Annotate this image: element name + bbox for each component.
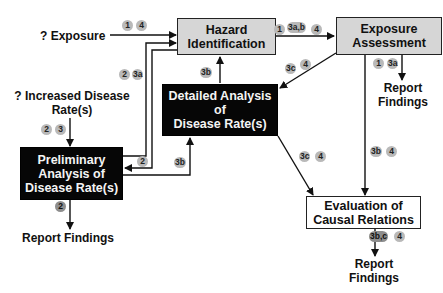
evaluation-line1: Evaluation of [313, 199, 414, 213]
step-badge: 4 [311, 24, 322, 35]
step-badge: 2 [41, 124, 52, 135]
exposure-assessment-line1: Exposure [352, 22, 426, 36]
evaluation-causal-relations-node: Evaluation of Causal Relations [306, 196, 421, 229]
detailed-line3: Disease Rate(s) [168, 117, 271, 131]
step-badge: 4 [315, 151, 326, 162]
step-badge: 3a,b [287, 22, 306, 33]
step-badge: 3a [387, 58, 398, 69]
step-badge: 3c [285, 63, 296, 74]
eval-report-line1: Report [343, 257, 405, 271]
detailed-line2: of [168, 103, 271, 117]
hazard-line1: Hazard [188, 23, 266, 37]
step-badge: 2 [119, 69, 130, 80]
disease-input-line1: ? Increased Disease [13, 89, 131, 103]
step-badge: 4 [136, 20, 147, 31]
hazard-identification-node: Hazard Identification [177, 18, 276, 55]
exposure-report-findings: Report Findings [372, 81, 434, 109]
step-badge: 1 [373, 58, 384, 69]
step-badge: 4 [300, 59, 311, 70]
step-badge: 2 [137, 156, 148, 167]
step-badge: 3a [132, 69, 143, 80]
step-badge: 1 [274, 24, 285, 35]
eval-report-line2: Findings [343, 271, 405, 285]
evaluation-line2: Causal Relations [313, 213, 414, 227]
step-badge: 3b [174, 157, 186, 168]
step-badge: 3b [370, 146, 382, 157]
arrow-detailed-to-eval [278, 136, 313, 195]
detailed-line1: Detailed Analysis [168, 89, 271, 103]
preliminary-line1: Preliminary [25, 153, 118, 167]
prelim-report-findings: Report Findings [22, 231, 114, 245]
step-badge: 1 [122, 20, 133, 31]
exposure-report-line1: Report [372, 81, 434, 95]
hazard-line2: Identification [188, 37, 266, 51]
preliminary-line3: Disease Rate(s) [25, 181, 118, 195]
exposure-assessment-line2: Assessment [352, 36, 426, 50]
step-badge: 3 [55, 124, 66, 135]
exposure-report-line2: Findings [372, 95, 434, 109]
step-badge: 3c [299, 151, 310, 162]
step-badge: 3b [200, 67, 212, 78]
exposure-assessment-node: Exposure Assessment [336, 17, 442, 55]
disease-input-line2: Rate(s) [13, 103, 131, 117]
step-badge: 4 [386, 146, 397, 157]
detailed-analysis-node: Detailed Analysis of Disease Rate(s) [162, 84, 278, 136]
eval-report-findings: Report Findings [343, 257, 405, 285]
preliminary-line2: Analysis of [25, 167, 118, 181]
step-badge: 4 [394, 231, 405, 242]
step-badge: 2 [55, 201, 66, 212]
exposure-input-label: ? Exposure [40, 29, 105, 43]
disease-input-label: ? Increased Disease Rate(s) [13, 89, 131, 117]
step-badge: 3b,c [369, 231, 388, 242]
preliminary-analysis-node: Preliminary Analysis of Disease Rate(s) [20, 147, 123, 200]
